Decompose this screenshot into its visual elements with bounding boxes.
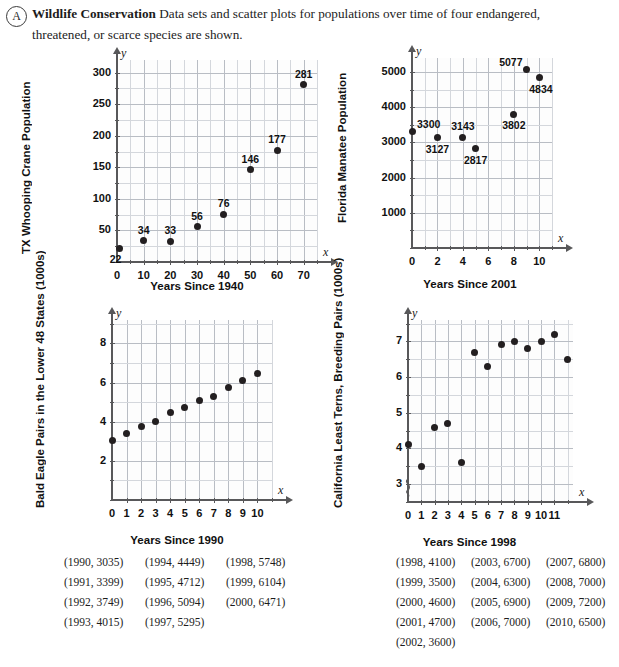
y-tick bbox=[115, 230, 120, 231]
gridline-horizontal bbox=[117, 88, 317, 89]
gridline-horizontal bbox=[408, 341, 573, 342]
data-point bbox=[109, 437, 116, 444]
y-axis-title: Florida Manatee Population bbox=[336, 52, 349, 244]
y-tick bbox=[110, 461, 115, 462]
data-point-label: 146 bbox=[234, 153, 266, 165]
data-point-label: 33 bbox=[154, 224, 186, 236]
gridline-vertical bbox=[199, 320, 200, 500]
y-minor-tick bbox=[110, 500, 114, 501]
gridline-vertical bbox=[197, 60, 198, 262]
scatter-plot-bald-eagle: yx2468012345678910Bald Eagle Pairs in th… bbox=[30, 312, 320, 557]
x-axis-title: Years Since 2001 bbox=[370, 278, 570, 290]
y-axis-title: California Least Terns, Breeding Pairs (… bbox=[332, 318, 345, 508]
y-axis-arrow bbox=[404, 307, 412, 314]
gridline-horizontal bbox=[408, 484, 573, 485]
y-axis-symbol: y bbox=[121, 46, 126, 61]
x-minor-tick bbox=[272, 498, 273, 502]
gridline-horizontal bbox=[112, 441, 272, 442]
x-tick bbox=[475, 500, 476, 505]
x-axis-symbol: x bbox=[323, 245, 328, 260]
y-minor-tick bbox=[410, 160, 414, 161]
y-tick-label: 3000 bbox=[364, 135, 406, 147]
x-tick bbox=[461, 500, 462, 505]
x-axis-title: Years Since 1998 bbox=[362, 536, 577, 548]
data-point bbox=[510, 111, 517, 118]
y-tick bbox=[115, 73, 120, 74]
y-minor-tick bbox=[115, 215, 119, 216]
y-tick-label: 150 bbox=[69, 160, 111, 172]
y-axis-symbol: y bbox=[412, 306, 417, 321]
y-axis-break-icon bbox=[401, 478, 415, 498]
data-list-column: (1990, 3035)(1991, 3399)(1992, 3749)(199… bbox=[64, 552, 123, 632]
x-tick bbox=[514, 246, 515, 251]
x-axis-title: Years Since 1940 bbox=[82, 280, 312, 292]
data-point bbox=[551, 331, 558, 338]
y-tick-label: 5 bbox=[360, 406, 402, 418]
y-minor-tick bbox=[406, 324, 410, 325]
x-tick bbox=[304, 260, 305, 265]
exercise-title: Wildlife Conservation bbox=[32, 6, 156, 21]
gridline-horizontal bbox=[117, 183, 317, 184]
gridline-horizontal bbox=[408, 413, 573, 414]
data-point bbox=[123, 430, 130, 437]
data-point bbox=[405, 441, 412, 448]
data-point bbox=[152, 418, 159, 425]
x-tick bbox=[435, 500, 436, 505]
gridline-horizontal bbox=[412, 213, 552, 214]
y-minor-tick bbox=[410, 90, 414, 91]
data-point bbox=[564, 356, 571, 363]
y-tick bbox=[410, 213, 415, 214]
gridline-vertical bbox=[224, 60, 225, 262]
data-pair: (1991, 3399) bbox=[64, 572, 123, 592]
y-minor-tick bbox=[110, 363, 114, 364]
data-point-label: 56 bbox=[181, 210, 213, 222]
y-minor-tick bbox=[110, 324, 114, 325]
gridline-horizontal bbox=[408, 448, 573, 449]
x-tick bbox=[170, 498, 171, 503]
x-tick bbox=[421, 500, 422, 505]
y-tick-label: 50 bbox=[69, 223, 111, 235]
data-point bbox=[471, 349, 478, 356]
y-tick bbox=[406, 341, 411, 342]
data-point bbox=[254, 370, 261, 377]
data-point bbox=[138, 423, 145, 430]
x-minor-tick bbox=[568, 500, 569, 504]
y-tick-label: 8 bbox=[64, 336, 106, 348]
data-list-column: (2007, 6800)(2008, 7000)(2009, 7200)(201… bbox=[546, 552, 605, 632]
y-tick-label: 200 bbox=[69, 129, 111, 141]
data-pair: (2010, 6500) bbox=[546, 612, 605, 632]
y-axis-arrow bbox=[108, 307, 116, 314]
x-axis-symbol: x bbox=[278, 483, 283, 498]
data-pair: (1999, 3500) bbox=[396, 572, 455, 592]
y-tick bbox=[410, 178, 415, 179]
y-tick bbox=[410, 107, 415, 108]
data-point-label: 177 bbox=[261, 133, 293, 145]
scatter-plot-florida-manatee: yx10002000300040005000024681033003127314… bbox=[340, 40, 619, 302]
x-axis-symbol: x bbox=[558, 231, 563, 246]
x-tick bbox=[197, 260, 198, 265]
y-tick-label: 250 bbox=[69, 97, 111, 109]
gridline-vertical bbox=[277, 60, 278, 262]
x-minor-tick bbox=[552, 246, 553, 250]
data-point bbox=[538, 338, 545, 345]
data-point-label: 22 bbox=[110, 253, 150, 265]
y-tick-label: 300 bbox=[69, 66, 111, 78]
gridline-vertical bbox=[141, 320, 142, 500]
data-point-label: 4834 bbox=[529, 83, 569, 95]
y-minor-tick bbox=[406, 502, 410, 503]
y-axis-symbol: y bbox=[116, 306, 121, 321]
data-pair: (2009, 7200) bbox=[546, 592, 605, 612]
data-pair: (1998, 4100) bbox=[396, 552, 455, 572]
y-minor-tick bbox=[406, 466, 410, 467]
data-point bbox=[431, 424, 438, 431]
data-pair: (1997, 5295) bbox=[145, 612, 204, 632]
gridline-vertical bbox=[421, 320, 422, 502]
x-tick bbox=[170, 260, 171, 265]
gridline-horizontal bbox=[112, 383, 272, 384]
x-tick-label: 10 bbox=[524, 255, 554, 267]
data-point bbox=[511, 338, 518, 345]
x-tick bbox=[488, 246, 489, 251]
data-point-label: 3802 bbox=[498, 119, 530, 131]
gridline-vertical bbox=[527, 58, 528, 248]
y-axis-arrow bbox=[408, 45, 416, 52]
